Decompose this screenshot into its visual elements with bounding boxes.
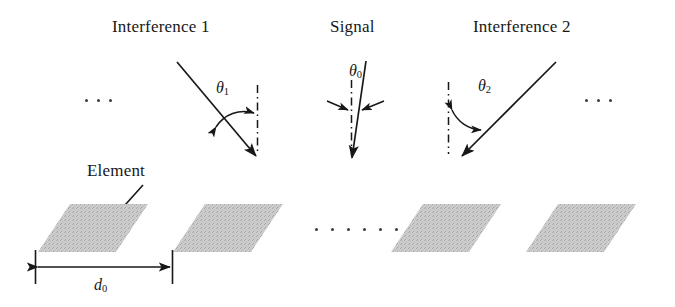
ellipsis-array-middle xyxy=(315,228,411,231)
ellipsis-dot xyxy=(379,228,382,231)
ellipsis-dot xyxy=(609,99,612,102)
ellipsis-dot xyxy=(331,228,334,231)
angle-arc-theta-2 xyxy=(452,110,481,130)
ellipsis-dot xyxy=(97,99,100,102)
theta-0-symbol: θ xyxy=(349,62,357,79)
theta-1-subscript: 1 xyxy=(224,86,229,97)
figure-vector-layer xyxy=(0,0,675,307)
ellipsis-left xyxy=(85,99,121,102)
ellipsis-dot xyxy=(395,228,398,231)
ellipsis-right xyxy=(585,99,621,102)
ray-interference-1 xyxy=(177,62,256,156)
array-element-4 xyxy=(526,204,636,252)
ellipsis-dot xyxy=(109,99,112,102)
ellipsis-dot xyxy=(363,228,366,231)
label-theta-1: θ1 xyxy=(216,80,229,98)
label-spacing-d0: d0 xyxy=(94,277,107,295)
ellipsis-dot xyxy=(315,228,318,231)
ellipsis-dot xyxy=(597,99,600,102)
theta-2-subscript: 2 xyxy=(486,84,491,95)
theta-1-symbol: θ xyxy=(216,79,224,96)
theta-2-symbol: θ xyxy=(478,77,486,94)
label-interference-2: Interference 2 xyxy=(473,18,571,35)
label-theta-0: θ0 xyxy=(349,63,362,81)
array-element-2 xyxy=(173,204,283,252)
ellipsis-dot xyxy=(585,99,588,102)
ellipsis-dot xyxy=(85,99,88,102)
angle-marker-theta-0-right xyxy=(362,101,384,110)
label-signal: Signal xyxy=(330,18,375,35)
theta-0-subscript: 0 xyxy=(357,69,362,80)
angle-marker-theta-0-left xyxy=(327,101,348,110)
label-element: Element xyxy=(87,162,145,179)
label-theta-2: θ2 xyxy=(478,78,491,96)
array-element-1 xyxy=(38,204,148,252)
ellipsis-dot xyxy=(347,228,350,231)
figure-canvas: Interference 1 Signal Interference 2 Ele… xyxy=(0,0,675,307)
label-interference-1: Interference 1 xyxy=(112,18,210,35)
d0-symbol: d xyxy=(94,276,102,293)
d0-subscript: 0 xyxy=(102,283,107,294)
angle-arc-theta-1 xyxy=(216,111,254,127)
ray-interference-2 xyxy=(462,62,556,156)
